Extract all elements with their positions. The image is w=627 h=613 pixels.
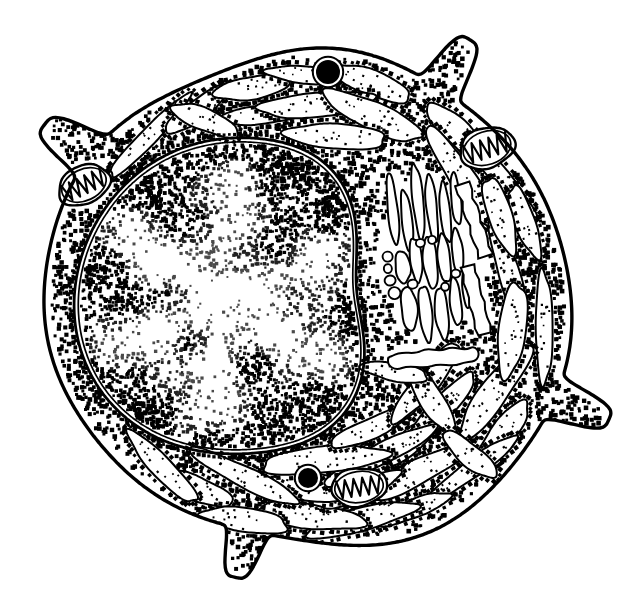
chromatin-dot bbox=[239, 237, 242, 240]
chromatin-dot bbox=[313, 322, 316, 325]
chromatin-dot bbox=[208, 437, 211, 440]
er-lumen-stipple bbox=[247, 85, 249, 87]
chromatin-dot bbox=[289, 197, 292, 200]
chromatin-dot bbox=[175, 378, 177, 380]
chromatin-dot bbox=[144, 382, 147, 385]
chromatin-dot bbox=[281, 172, 285, 176]
chromatin-dot bbox=[175, 161, 177, 163]
chromatin-dot bbox=[248, 385, 250, 387]
chromatin-dot bbox=[103, 229, 106, 232]
chromatin-dot bbox=[112, 370, 115, 373]
chromatin-dot bbox=[283, 311, 285, 313]
free-ribosome bbox=[492, 276, 495, 279]
chromatin-dot bbox=[338, 246, 341, 249]
free-ribosome bbox=[250, 540, 254, 544]
free-ribosome bbox=[463, 321, 467, 325]
free-ribosome bbox=[186, 137, 189, 140]
chromatin-dot bbox=[114, 321, 117, 324]
chromatin-dot bbox=[197, 178, 200, 181]
chromatin-dot bbox=[285, 172, 289, 176]
free-ribosome bbox=[550, 381, 554, 385]
free-ribosome bbox=[61, 360, 65, 364]
chromatin-dot bbox=[144, 214, 147, 217]
chromatin-dot bbox=[296, 201, 299, 204]
chromatin-dot bbox=[154, 362, 157, 365]
chromatin-dot bbox=[249, 144, 252, 147]
free-ribosome bbox=[212, 474, 215, 477]
chromatin-dot bbox=[170, 414, 173, 417]
free-ribosome bbox=[562, 323, 565, 326]
chromatin-dot bbox=[180, 336, 183, 339]
free-ribosome bbox=[88, 213, 92, 217]
chromatin-dot bbox=[326, 394, 329, 397]
free-ribosome bbox=[343, 169, 348, 174]
chromatin-dot bbox=[303, 383, 307, 387]
chromatin-dot bbox=[205, 162, 208, 165]
free-ribosome bbox=[375, 383, 378, 386]
chromatin-dot bbox=[106, 307, 109, 310]
chromatin-dot bbox=[141, 375, 144, 378]
chromatin-dot bbox=[191, 240, 194, 243]
er-lumen-stipple bbox=[513, 330, 515, 332]
chromatin-dot bbox=[249, 276, 251, 278]
chromatin-dot bbox=[119, 389, 123, 393]
chromatin-dot bbox=[124, 376, 127, 379]
chromatin-dot bbox=[275, 359, 278, 362]
chromatin-dot bbox=[189, 408, 192, 411]
er-lumen-stipple bbox=[230, 524, 232, 526]
er-bound-ribosome bbox=[380, 379, 384, 383]
chromatin-dot bbox=[337, 299, 340, 302]
chromatin-dot bbox=[322, 230, 326, 234]
chromatin-dot bbox=[136, 326, 138, 328]
free-ribosome bbox=[69, 239, 72, 242]
er-bound-ribosome bbox=[384, 138, 388, 142]
chromatin-dot bbox=[293, 290, 297, 294]
chromatin-dot bbox=[251, 248, 254, 251]
chromatin-dot bbox=[269, 244, 272, 247]
chromatin-dot bbox=[104, 267, 108, 271]
free-ribosome bbox=[483, 339, 487, 343]
chromatin-dot bbox=[308, 185, 312, 189]
chromatin-dot bbox=[229, 221, 232, 224]
er-bound-ribosome bbox=[534, 270, 538, 274]
er-bound-ribosome bbox=[330, 150, 333, 153]
chromatin-dot bbox=[300, 236, 303, 239]
chromatin-dot bbox=[200, 342, 203, 345]
chromatin-dot bbox=[334, 305, 337, 308]
free-ribosome bbox=[82, 381, 85, 384]
chromatin-dot bbox=[253, 245, 256, 248]
chromatin-dot bbox=[135, 284, 138, 287]
free-ribosome bbox=[369, 353, 372, 356]
chromatin-dot bbox=[85, 338, 88, 341]
chromatin-dot bbox=[95, 236, 98, 239]
free-ribosome bbox=[369, 257, 373, 261]
chromatin-dot bbox=[325, 189, 329, 193]
chromatin-dot bbox=[309, 416, 313, 420]
chromatin-dot bbox=[307, 216, 310, 219]
free-ribosome bbox=[547, 234, 551, 238]
chromatin-dot bbox=[312, 331, 314, 333]
er-lumen-stipple bbox=[256, 519, 258, 521]
chromatin-dot bbox=[151, 215, 154, 218]
chromatin-dot bbox=[338, 254, 341, 257]
free-ribosome bbox=[85, 406, 89, 410]
chromatin-dot bbox=[179, 359, 183, 363]
chromatin-dot bbox=[263, 274, 266, 277]
chromatin-dot bbox=[229, 153, 232, 156]
free-ribosome bbox=[133, 464, 138, 469]
free-ribosome bbox=[442, 65, 447, 70]
chromatin-dot bbox=[206, 421, 209, 424]
er-lumen-stipple bbox=[515, 354, 517, 356]
chromatin-dot bbox=[296, 401, 299, 404]
free-ribosome bbox=[62, 364, 66, 368]
chromatin-dot bbox=[277, 166, 280, 169]
er-bound-ribosome bbox=[236, 501, 241, 506]
chromatin-dot bbox=[193, 437, 196, 440]
chromatin-dot bbox=[344, 226, 347, 229]
er-bound-ribosome bbox=[494, 321, 498, 325]
free-ribosome bbox=[380, 304, 384, 308]
chromatin-dot bbox=[129, 199, 132, 202]
chromatin-dot bbox=[178, 189, 181, 192]
chromatin-dot bbox=[205, 407, 208, 410]
chromatin-dot bbox=[286, 287, 289, 290]
